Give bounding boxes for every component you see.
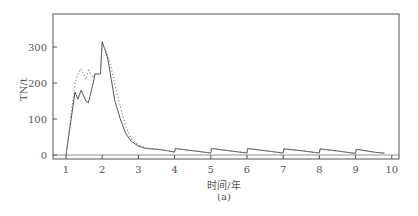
x-tick-label: 6: [244, 164, 250, 175]
y-tick-label: 0: [41, 150, 47, 161]
series-line-dotted: [66, 43, 385, 155]
x-tick-label: 1: [63, 164, 69, 175]
x-tick-label: 5: [208, 164, 214, 175]
x-tick-label: 4: [171, 164, 177, 175]
series-lines: [66, 42, 385, 155]
x-axis-ticks: 12345678910: [63, 155, 398, 175]
subfigure-caption: (a): [204, 191, 244, 202]
x-tick-label: 2: [99, 164, 105, 175]
y-tick-label: 200: [28, 78, 47, 89]
x-tick-label: 9: [352, 164, 358, 175]
x-tick-label: 8: [316, 164, 322, 175]
series-line-solid: [66, 42, 385, 155]
y-axis-label: TN/t: [18, 75, 29, 105]
x-axis-label: 时间/年: [194, 177, 254, 192]
plot-frame: [53, 14, 399, 159]
x-tick-label: 7: [280, 164, 286, 175]
x-tick-label: 10: [385, 164, 398, 175]
x-tick-label: 3: [135, 164, 141, 175]
y-tick-label: 100: [28, 114, 47, 125]
y-tick-label: 300: [28, 42, 47, 53]
